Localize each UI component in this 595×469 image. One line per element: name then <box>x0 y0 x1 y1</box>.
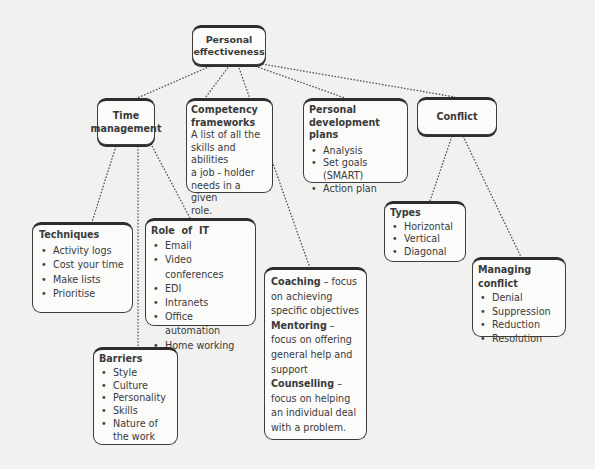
list-item: Denial <box>492 291 560 305</box>
list-item: Prioritise <box>53 287 126 302</box>
list-item: Office automation <box>165 310 250 338</box>
list-item: Nature of the work <box>113 418 172 444</box>
barriers-list: Style Culture Personality Skills Nature … <box>99 367 172 444</box>
node-conflict: Conflict <box>417 97 497 135</box>
list-item: Suppression <box>492 305 560 319</box>
list-item: Skills <box>113 405 172 418</box>
list-item: Style <box>113 367 172 380</box>
pdp-title-line2: development plans <box>309 117 402 142</box>
conflict-label: Conflict <box>436 111 477 124</box>
list-item: Personality <box>113 392 172 405</box>
list-item: Intranets <box>165 296 250 310</box>
list-item: Resolution <box>492 332 560 346</box>
node-competency-frameworks: Competency frameworks A list of all the … <box>186 98 273 193</box>
list-item: Horizontal <box>404 221 460 234</box>
coaching-term: Coaching <box>271 276 321 287</box>
node-techniques: Techniques Activity logs Cost your time … <box>32 222 133 313</box>
mentoring-entry: Mentoring – focus on offering general he… <box>271 319 360 377</box>
list-item: Action plan <box>323 183 402 196</box>
list-item: Home working <box>165 339 250 353</box>
root-node-personal-effectiveness: Personal effectiveness <box>192 25 266 65</box>
competency-title-line1: Competency <box>191 104 268 117</box>
pdp-list: Analysis Set goals (SMART) Action plan <box>309 145 402 195</box>
types-title: Types <box>390 207 460 220</box>
competency-text-line: a job - holder <box>191 167 268 180</box>
list-item: Reduction <box>492 318 560 332</box>
pdp-title-line1: Personal <box>309 104 402 117</box>
list-item: Email <box>165 239 250 253</box>
competency-text-line: needs in a given <box>191 180 268 205</box>
root-label-line2: effectiveness <box>193 46 264 57</box>
list-item: Diagonal <box>404 246 460 259</box>
barriers-title: Barriers <box>99 353 172 366</box>
node-barriers: Barriers Style Culture Personality Skill… <box>93 347 178 445</box>
counselling-term: Counselling <box>271 378 334 389</box>
competency-title-line2: frameworks <box>191 117 268 130</box>
node-coaching-mentoring-counselling: Coaching – focus on achieving specific o… <box>264 267 367 440</box>
techniques-title: Techniques <box>39 228 126 243</box>
techniques-list: Activity logs Cost your time Make lists … <box>39 244 126 302</box>
root-label-line1: Personal <box>206 34 253 45</box>
role-of-it-title: Role of IT <box>151 224 250 238</box>
role-of-it-list: Email Video conferences EDI Intranets Of… <box>151 239 250 353</box>
list-item: Make lists <box>53 273 126 288</box>
managing-conflict-title: Managing conflict <box>478 263 560 290</box>
competency-text-line: skills and abilities <box>191 142 268 167</box>
list-item: Vertical <box>404 233 460 246</box>
list-item: Analysis <box>323 145 402 158</box>
list-item: Video conferences <box>165 253 250 281</box>
node-role-of-it: Role of IT Email Video conferences EDI I… <box>145 218 256 326</box>
counselling-entry: Counselling – focus on helping an indivi… <box>271 377 360 435</box>
competency-text-line: A list of all the <box>191 129 268 142</box>
list-item: Culture <box>113 380 172 393</box>
list-item: Set goals (SMART) <box>323 157 402 182</box>
competency-text-line: role. <box>191 205 268 218</box>
list-item: EDI <box>165 282 250 296</box>
competency-description: A list of all the skills and abilities a… <box>191 129 268 217</box>
mentoring-term: Mentoring <box>271 320 327 331</box>
time-management-line1: Time <box>113 110 139 121</box>
list-item: Activity logs <box>53 244 126 259</box>
types-list: Horizontal Vertical Diagonal <box>390 221 460 259</box>
node-time-management: Time management <box>97 98 155 145</box>
list-item: Cost your time <box>53 258 126 273</box>
node-types: Types Horizontal Vertical Diagonal <box>384 201 466 262</box>
time-management-line2: management <box>90 123 161 134</box>
managing-conflict-list: Denial Suppression Reduction Resolution <box>478 291 560 345</box>
coaching-entry: Coaching – focus on achieving specific o… <box>271 275 360 319</box>
node-managing-conflict: Managing conflict Denial Suppression Red… <box>472 257 566 337</box>
node-personal-development-plans: Personal development plans Analysis Set … <box>303 98 408 183</box>
